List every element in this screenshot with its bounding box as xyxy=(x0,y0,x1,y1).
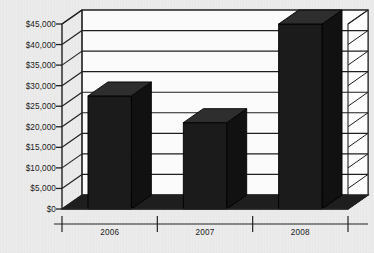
bar-front-face xyxy=(88,96,131,209)
y-tick-label: $20,000 xyxy=(4,122,56,131)
y-tick-label: $15,000 xyxy=(4,143,56,152)
gridline-depth xyxy=(62,31,82,45)
gridline-depth xyxy=(62,51,82,65)
y-tick-label: $30,000 xyxy=(4,81,56,90)
x-tick-label-2007: 2007 xyxy=(175,228,235,237)
gridline-depth xyxy=(62,113,82,127)
gridline-depth xyxy=(62,154,82,168)
y-tick-label: $10,000 xyxy=(4,163,56,172)
bar-chart-3d: $45,000 $40,000 $35,000 $30,000 $25,000 … xyxy=(0,0,374,253)
bar-front-face xyxy=(183,123,226,209)
bar-side-face xyxy=(131,82,151,209)
chart-canvas xyxy=(0,0,374,253)
bar-2006 xyxy=(88,82,151,209)
y-tick-label: $40,000 xyxy=(4,40,56,49)
gridline-depth xyxy=(62,133,82,147)
gridline-depth xyxy=(62,92,82,106)
bar-side-face xyxy=(322,10,342,209)
x-tick-label-2006: 2006 xyxy=(80,228,140,237)
gridline-depth xyxy=(62,72,82,86)
bar-2007 xyxy=(183,109,246,209)
gridline-depth xyxy=(62,174,82,188)
y-tick-label: $45,000 xyxy=(4,20,56,29)
x-tick-label-2008: 2008 xyxy=(270,228,330,237)
bar-side-face xyxy=(227,109,247,209)
bar-front-face xyxy=(279,24,322,209)
y-tick-label: $5,000 xyxy=(4,184,56,193)
plot-right-wall xyxy=(348,10,368,209)
y-tick-label: $35,000 xyxy=(4,61,56,70)
y-tick-label: $0 xyxy=(4,205,56,214)
y-tick-label: $25,000 xyxy=(4,102,56,111)
y-axis-top-cap xyxy=(62,10,82,24)
bar-2008 xyxy=(279,10,342,209)
